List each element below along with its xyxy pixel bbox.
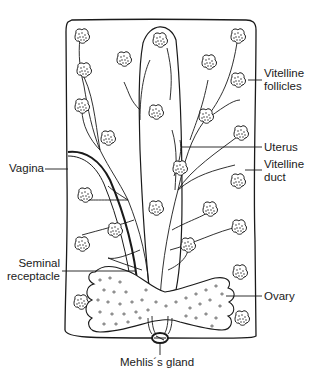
proglottid-diagram [0,0,319,377]
label-vitelline-follicles: Vitelline follicles [264,67,304,93]
label-ovary: Ovary [264,290,295,303]
label-vagina: Vagina [4,162,44,175]
label-uterus: Uterus [264,141,298,154]
label-mehlis-gland: Mehlis´s gland [120,356,194,369]
label-vitelline-duct: Vitelline duct [264,158,304,184]
ovary-shape [86,267,234,332]
label-seminal-receptacle: Seminal receptacle [2,257,60,283]
